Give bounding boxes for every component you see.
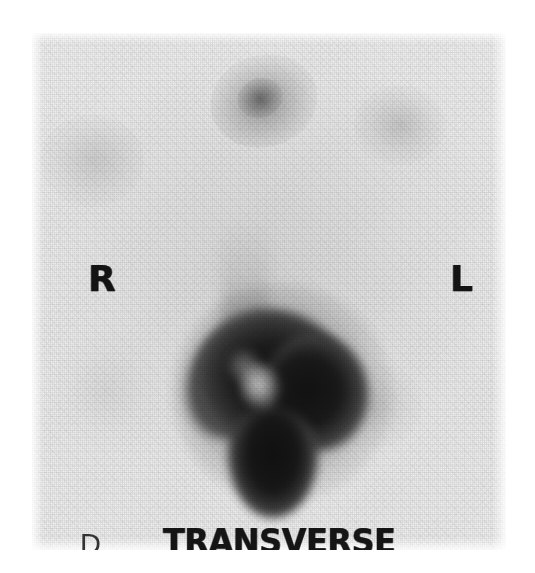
- detector-label: D: [80, 530, 101, 550]
- slice-orientation-label: TRANSVERSE: [163, 525, 395, 550]
- orientation-marker-left: L: [450, 261, 473, 297]
- scintigram-image: R L D TRANSVERSE: [32, 33, 506, 550]
- orientation-marker-right: R: [88, 261, 116, 297]
- scan-page: R L D TRANSVERSE: [0, 0, 535, 573]
